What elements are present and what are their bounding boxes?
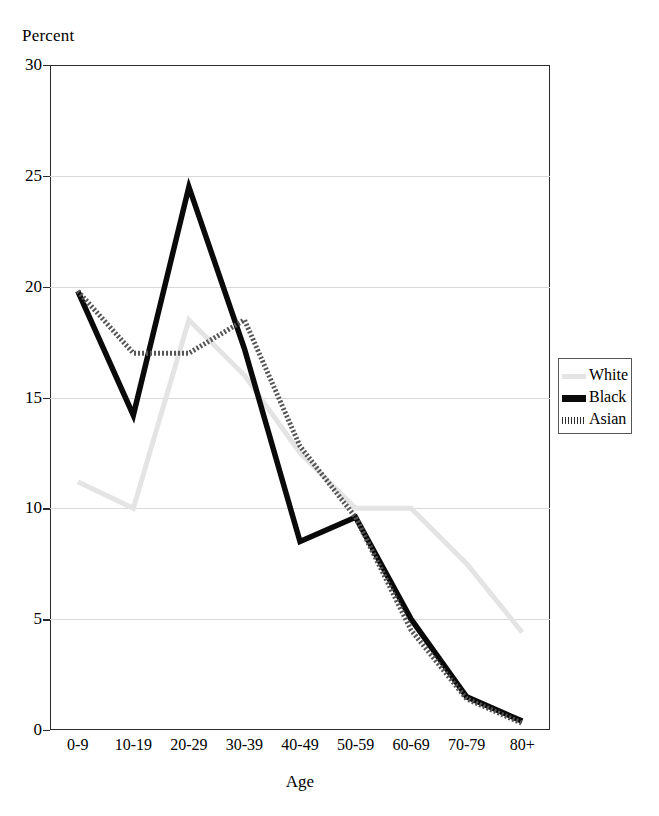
y-tick-mark — [43, 508, 50, 509]
legend: White Black Asian — [558, 358, 632, 434]
y-tick-label: 0 — [8, 721, 42, 738]
y-tick-mark — [43, 65, 50, 66]
y-tick-label: 20 — [8, 278, 42, 295]
legend-label-asian: Asian — [589, 411, 626, 427]
y-tick-label: 10 — [8, 499, 42, 516]
legend-item-white: White — [559, 364, 631, 386]
y-tick-label: 15 — [8, 389, 42, 406]
y-tick-mark — [43, 287, 50, 288]
x-axis-title: Age — [0, 772, 600, 792]
y-tick-mark — [43, 398, 50, 399]
legend-label-white: White — [589, 367, 628, 383]
y-tick-mark — [43, 176, 50, 177]
y-tick-mark — [43, 730, 50, 731]
y-tick-label: 5 — [8, 610, 42, 627]
legend-swatch-white-icon — [562, 374, 586, 379]
y-tick-label: 25 — [8, 167, 42, 184]
y-tick-label: 30 — [8, 56, 42, 73]
legend-label-black: Black — [589, 389, 626, 405]
legend-swatch-black-icon — [562, 395, 586, 402]
legend-swatch-asian-icon — [562, 417, 586, 424]
y-axis-title: Percent — [22, 26, 74, 46]
line-chart-figure: Percent 051015202530 0-910-1920-2930-394… — [0, 0, 659, 816]
legend-item-asian: Asian — [559, 408, 631, 430]
series-lines — [50, 65, 550, 730]
plot-area: 051015202530 0-910-1920-2930-3940-4950-5… — [50, 65, 550, 730]
y-tick-mark — [43, 619, 50, 620]
x-tick-label: 80+ — [487, 737, 557, 753]
legend-item-black: Black — [559, 386, 631, 408]
series-line-asian — [78, 291, 522, 723]
